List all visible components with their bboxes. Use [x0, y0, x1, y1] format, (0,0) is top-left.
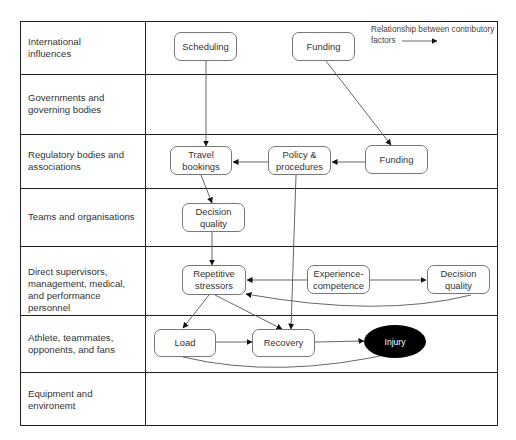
node-decision-quality-teams: Decision quality — [182, 203, 245, 232]
node-policy-procedures: Policy & procedures — [268, 146, 331, 175]
node-experience-competence: Experience-competence — [307, 265, 370, 294]
node-decision-quality-supervisors: Decision quality — [427, 265, 490, 294]
diagram-canvas: International influences Governments and… — [0, 0, 516, 440]
node-travel-bookings: Travel bookings — [170, 146, 232, 175]
node-funding-regulatory: Funding — [365, 145, 428, 174]
node-repetitive-stressors: Repetitive stressors — [182, 265, 246, 295]
edges-layer — [0, 0, 516, 440]
node-load: Load — [154, 329, 216, 357]
node-recovery: Recovery — [252, 329, 315, 357]
node-funding-international: Funding — [292, 32, 355, 61]
node-injury: Injury — [364, 325, 426, 358]
node-scheduling: Scheduling — [174, 32, 237, 61]
